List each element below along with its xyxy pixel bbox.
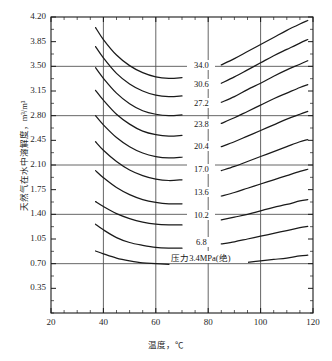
curve-label: 10.2 <box>187 210 215 220</box>
curve-label: 30.6 <box>187 79 215 89</box>
x-tick-label: 40 <box>88 317 118 327</box>
x-tick-label: 20 <box>36 317 66 327</box>
data-curve <box>96 202 182 225</box>
data-curve <box>248 255 308 262</box>
y-tick-label: 1.75 <box>12 184 46 194</box>
curve-label: 17.0 <box>187 164 215 174</box>
data-curve <box>221 140 307 171</box>
data-curve <box>96 171 182 204</box>
data-curve <box>96 116 182 158</box>
x-tick-label: 80 <box>193 317 223 327</box>
x-axis-label: 温度，℃ <box>0 338 332 350</box>
chart-figure: 天然气在水中溶解度，m³/m³ 温度，℃ 20406080100120 0.35… <box>0 0 332 361</box>
data-curve <box>221 226 307 244</box>
data-curve <box>221 200 307 220</box>
curve-label: 23.8 <box>187 119 215 129</box>
data-curve <box>96 68 182 116</box>
data-curve <box>96 142 182 181</box>
curve-label: 6.8 <box>187 237 215 247</box>
data-curve <box>221 169 307 196</box>
y-tick-label: 0.70 <box>12 258 46 268</box>
x-tick-label: 120 <box>298 317 328 327</box>
y-tick-label: 2.80 <box>12 110 46 120</box>
data-curve <box>221 111 307 146</box>
y-tick-label: 1.40 <box>12 208 46 218</box>
y-tick-label: 3.15 <box>12 85 46 95</box>
y-tick-label: 3.50 <box>12 60 46 70</box>
curve-label: 20.4 <box>187 141 215 151</box>
solubility-line-chart <box>0 0 332 361</box>
data-curve <box>221 21 307 65</box>
curve-label: 34.0 <box>187 60 215 70</box>
curve-label: 13.6 <box>187 187 215 197</box>
x-tick-label: 100 <box>246 317 276 327</box>
y-tick-label: 1.05 <box>12 233 46 243</box>
y-tick-label: 3.85 <box>12 36 46 46</box>
data-curve <box>96 47 182 97</box>
data-curve <box>221 85 307 124</box>
y-tick-label: 4.20 <box>12 11 46 21</box>
data-curve <box>221 61 307 103</box>
y-tick-label: 2.10 <box>12 159 46 169</box>
curve-label: 27.2 <box>187 98 215 108</box>
data-curve <box>96 251 169 264</box>
x-tick-label: 60 <box>141 317 171 327</box>
data-curve <box>96 28 182 79</box>
data-curve <box>221 40 307 84</box>
pressure-annotation: 压力3.4MPa(绝) <box>170 251 248 263</box>
y-tick-label: 0.35 <box>12 282 46 292</box>
data-curve <box>96 224 182 248</box>
y-tick-label: 2.45 <box>12 134 46 144</box>
